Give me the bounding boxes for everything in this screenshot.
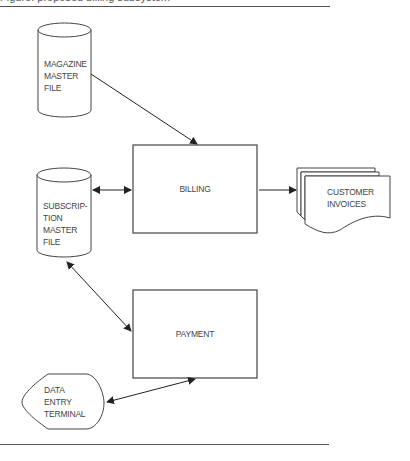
label-line: CUSTOMER — [327, 186, 374, 198]
edge-magazine-to-billing — [91, 74, 197, 144]
data-entry-terminal-label: DATA ENTRY TERMINAL — [44, 384, 85, 420]
label-line: MAGAZINE — [44, 58, 87, 70]
label-line: TION — [43, 212, 88, 224]
billing-label: BILLING — [133, 183, 257, 195]
label-line: MASTER — [43, 224, 88, 236]
magazine-master-file-label: MAGAZINE MASTER FILE — [44, 58, 87, 94]
edge-subscription-payment — [67, 262, 131, 331]
label-line: ENTRY — [44, 396, 85, 408]
label-line: TERMINAL — [44, 408, 85, 420]
label-line: FILE — [43, 236, 88, 248]
label-line: DATA — [44, 384, 85, 396]
label-line: SUBSCRIP- — [43, 200, 88, 212]
payment-label: PAYMENT — [133, 328, 257, 340]
edge-terminal-payment — [107, 379, 195, 402]
label-line: MASTER — [44, 70, 87, 82]
label-line: FILE — [44, 82, 87, 94]
subscription-master-file-label: SUBSCRIP- TION MASTER FILE — [43, 200, 88, 248]
label-line: INVOICES — [327, 198, 374, 210]
customer-invoices-label: CUSTOMER INVOICES — [327, 186, 374, 210]
